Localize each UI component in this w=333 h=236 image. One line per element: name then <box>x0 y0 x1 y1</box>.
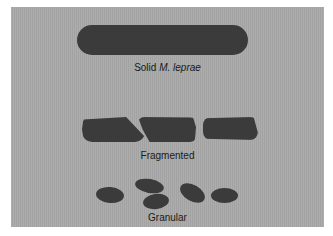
solid-bacillus-shape <box>77 25 248 55</box>
solid-label: Solid M. leprae <box>11 62 324 73</box>
granule-shape-5 <box>211 188 238 203</box>
granule-shape-2 <box>134 177 165 196</box>
granule-shape-3 <box>142 192 170 210</box>
fragment-shape-3 <box>203 117 258 140</box>
solid-label-species: M. leprae <box>159 62 201 73</box>
granule-shape-4 <box>177 179 208 206</box>
fragmented-label: Fragmented <box>11 150 324 161</box>
granular-label: Granular <box>11 212 324 223</box>
fragment-shape-1 <box>82 117 145 142</box>
solid-label-text: Solid <box>134 62 159 73</box>
fragment-shape-2 <box>138 117 196 142</box>
figure-panel: Solid M. leprae Fragmented Granular <box>11 7 324 227</box>
granule-shape-1 <box>95 186 124 204</box>
